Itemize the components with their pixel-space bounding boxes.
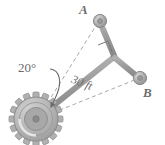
pin-joint-b-icon <box>133 71 146 84</box>
label-point-a: A <box>79 3 88 16</box>
label-point-b: B <box>143 86 152 99</box>
pin-joint-a-icon <box>93 14 106 27</box>
mechanism-diagram-figure: A B 20° 30 ft <box>0 0 165 145</box>
label-angle-20-degrees: 20° <box>18 61 36 74</box>
